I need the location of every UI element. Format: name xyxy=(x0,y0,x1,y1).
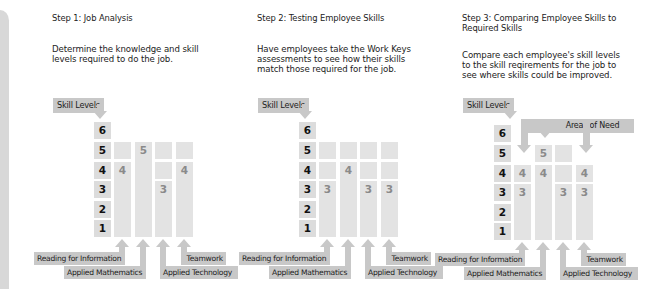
skill-levels-arrow-icon xyxy=(93,111,107,119)
cell-technology-4 xyxy=(155,162,172,179)
cell-reading-4 xyxy=(319,162,336,179)
cell-technology-5 xyxy=(155,142,172,159)
value-technology-employee: 3 xyxy=(555,184,572,201)
step-1-description: Determine the knowledge and skill levels… xyxy=(52,44,199,64)
value-applied-technology: 3 xyxy=(360,181,377,198)
label-applied-mathematics: Applied Mathematics xyxy=(269,266,351,279)
value-teamwork: 3 xyxy=(381,181,398,198)
level-4: 4 xyxy=(94,162,111,179)
need-arrow-stem xyxy=(583,119,590,145)
level-3: 3 xyxy=(494,184,511,201)
level-2: 2 xyxy=(494,204,511,221)
value-teamwork-required: 4 xyxy=(576,165,593,182)
value-reading-for-information: 4 xyxy=(114,162,131,179)
label-applied-mathematics: Applied Mathematics xyxy=(64,266,146,279)
step-3-title: Step 3: Comparing Employee Skills to Req… xyxy=(462,13,616,33)
level-1: 1 xyxy=(494,223,511,240)
level-6: 6 xyxy=(94,122,111,139)
need-arrow-icon xyxy=(579,145,593,153)
level-5: 5 xyxy=(94,142,111,159)
level-4: 4 xyxy=(494,165,511,182)
value-applied-mathematics: 5 xyxy=(135,142,152,159)
step-1-title: Step 1: Job Analysis xyxy=(52,13,133,23)
need-arrow-icon xyxy=(517,145,531,153)
value-reading-employee: 3 xyxy=(514,184,531,201)
label-teamwork: Teamwork xyxy=(581,253,626,266)
cell-teamwork-5 xyxy=(381,142,398,159)
value-applied-mathematics: 4 xyxy=(340,162,357,179)
label-applied-technology: Applied Technology xyxy=(560,267,638,280)
level-2: 2 xyxy=(94,201,111,218)
cell-technology-4 xyxy=(555,165,572,182)
level-2: 2 xyxy=(299,201,316,218)
cell-technology-4 xyxy=(360,162,377,179)
level-5: 5 xyxy=(299,142,316,159)
level-6: 6 xyxy=(494,125,511,142)
value-reading-for-information: 3 xyxy=(319,181,336,198)
arrow-stem xyxy=(560,249,566,267)
label-reading-for-information: Reading for Information xyxy=(435,253,525,266)
arrow-stem xyxy=(345,246,351,266)
step-2-panel: Step 2: Testing Employee Skills Have emp… xyxy=(205,0,425,289)
level-3: 3 xyxy=(299,181,316,198)
level-4: 4 xyxy=(299,162,316,179)
arrow-stem xyxy=(140,246,146,266)
level-5: 5 xyxy=(494,145,511,162)
cell-math-5 xyxy=(340,142,357,159)
arrow-stem xyxy=(540,249,546,267)
cell-reading-5 xyxy=(114,142,131,159)
value-applied-technology: 3 xyxy=(155,181,172,198)
skill-levels-arrow-icon xyxy=(298,111,312,119)
value-math-required: 5 xyxy=(535,145,552,162)
level-1: 1 xyxy=(94,220,111,237)
value-math-employee: 4 xyxy=(535,165,552,182)
cell-technology-5 xyxy=(360,142,377,159)
cell-technology-5 xyxy=(555,145,572,162)
skill-levels-arrow-icon xyxy=(503,111,517,119)
value-reading-required: 4 xyxy=(514,165,531,182)
step-1-panel: Step 1: Job Analysis Determine the knowl… xyxy=(0,0,220,289)
value-teamwork: 4 xyxy=(176,162,193,179)
level-6: 6 xyxy=(299,122,316,139)
step-2-title: Step 2: Testing Employee Skills xyxy=(257,13,384,23)
label-applied-mathematics: Applied Mathematics xyxy=(464,267,546,280)
arrow-stem xyxy=(365,246,371,266)
cell-reading-5 xyxy=(319,142,336,159)
need-arrow-stem xyxy=(521,119,528,145)
label-reading-for-information: Reading for Information xyxy=(34,252,125,265)
step-2-description: Have employees take the Work Keys assess… xyxy=(257,44,411,74)
arrow-stem xyxy=(160,246,166,266)
level-1: 1 xyxy=(299,220,316,237)
value-teamwork-employee: 3 xyxy=(576,184,593,201)
cell-teamwork-5 xyxy=(176,142,193,159)
need-arrow-icon xyxy=(538,130,552,138)
step-3-panel: Step 3: Comparing Employee Skills to Req… xyxy=(409,0,654,289)
label-reading-for-information: Reading for Information xyxy=(239,252,330,265)
step-3-description: Compare each employee's skill levels to … xyxy=(462,50,620,80)
level-3: 3 xyxy=(94,181,111,198)
cell-teamwork-4 xyxy=(381,162,398,179)
